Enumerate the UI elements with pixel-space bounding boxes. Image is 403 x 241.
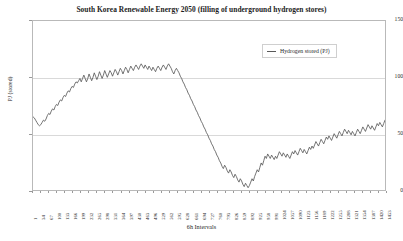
x-tick-mark-991	[273, 191, 274, 193]
x-tick-label-199: 199	[82, 213, 87, 220]
x-tick-mark-892	[249, 191, 250, 193]
x-tick-mark-1123	[306, 191, 307, 193]
x-tick-mark-430	[137, 191, 138, 193]
x-tick-label-34: 34	[42, 215, 47, 220]
x-tick-mark-496	[153, 191, 154, 193]
x-tick-mark-1	[32, 191, 33, 193]
x-tick-mark-727	[209, 191, 210, 193]
x-tick-label-463: 463	[146, 213, 151, 220]
x-tick-label-1024: 1024	[283, 210, 288, 220]
x-tick-mark-1222	[330, 191, 331, 193]
x-tick-mark-199	[80, 191, 81, 193]
x-tick-label-1354: 1354	[363, 210, 368, 220]
x-tick-mark-661	[193, 191, 194, 193]
x-tick-mark-1288	[346, 191, 347, 193]
x-tick-label-1189: 1189	[323, 211, 328, 220]
x-tick-label-67: 67	[50, 215, 55, 220]
x-tick-label-859: 859	[243, 213, 248, 220]
x-tick-label-826: 826	[235, 213, 240, 220]
legend-swatch-hydrogen-stored	[267, 51, 276, 52]
legend: Hydrogen stored (PJ)	[262, 44, 337, 58]
x-tick-label-892: 892	[251, 213, 256, 220]
x-tick-label-727: 727	[211, 213, 216, 220]
x-tick-mark-34	[40, 191, 41, 193]
x-tick-label-661: 661	[195, 213, 200, 220]
x-tick-mark-694	[201, 191, 202, 193]
x-tick-label-793: 793	[227, 213, 232, 220]
x-tick-mark-1057	[289, 191, 290, 193]
x-tick-mark-1024	[281, 191, 282, 193]
x-tick-mark-364	[121, 191, 122, 193]
chart-root: South Korea Renewable Energy 2050 (filli…	[0, 0, 403, 241]
x-tick-label-1090: 1090	[299, 210, 304, 220]
x-tick-mark-1321	[354, 191, 355, 193]
x-tick-label-100: 100	[58, 213, 63, 220]
x-tick-mark-595	[177, 191, 178, 193]
x-tick-mark-628	[185, 191, 186, 193]
x-axis-label: 6h Intervals	[0, 223, 403, 230]
x-tick-label-1387: 1387	[372, 210, 377, 220]
x-tick-label-430: 430	[138, 213, 143, 220]
x-tick-label-1420: 1420	[380, 210, 385, 220]
x-tick-mark-1453	[386, 191, 387, 193]
x-tick-mark-100	[56, 191, 57, 193]
x-tick-label-760: 760	[219, 213, 224, 220]
x-tick-mark-397	[129, 191, 130, 193]
x-tick-label-1123: 1123	[307, 211, 312, 220]
x-tick-label-1288: 1288	[347, 210, 352, 220]
x-tick-label-331: 331	[114, 213, 119, 220]
x-tick-mark-562	[169, 191, 170, 193]
x-tick-mark-463	[145, 191, 146, 193]
x-tick-mark-1420	[378, 191, 379, 193]
y-axis-label: PJ (stored)	[7, 59, 13, 119]
x-tick-mark-826	[233, 191, 234, 193]
x-tick-label-265: 265	[98, 213, 103, 220]
x-tick-label-133: 133	[66, 213, 71, 220]
x-tick-label-1321: 1321	[355, 210, 360, 220]
x-tick-mark-859	[241, 191, 242, 193]
x-tick-label-397: 397	[130, 213, 135, 220]
x-tick-label-991: 991	[275, 213, 280, 220]
x-tick-label-529: 529	[162, 213, 167, 220]
x-tick-label-1453: 1453	[388, 210, 393, 220]
x-tick-mark-166	[72, 191, 73, 193]
x-tick-mark-133	[64, 191, 65, 193]
x-tick-mark-760	[217, 191, 218, 193]
x-tick-label-1: 1	[34, 218, 39, 220]
x-tick-label-166: 166	[74, 213, 79, 220]
x-tick-label-364: 364	[122, 213, 127, 220]
x-tick-label-628: 628	[186, 213, 191, 220]
x-tick-label-1222: 1222	[331, 210, 336, 220]
x-tick-label-1255: 1255	[339, 210, 344, 220]
x-tick-mark-265	[96, 191, 97, 193]
x-tick-label-232: 232	[90, 213, 95, 220]
x-tick-label-694: 694	[203, 213, 208, 220]
x-tick-mark-1354	[362, 191, 363, 193]
x-tick-mark-331	[112, 191, 113, 193]
x-tick-label-1057: 1057	[291, 210, 296, 220]
x-tick-mark-1387	[370, 191, 371, 193]
x-tick-label-1156: 1156	[315, 211, 320, 220]
series-line-hydrogen-stored	[33, 64, 385, 188]
x-tick-mark-67	[48, 191, 49, 193]
x-tick-mark-958	[265, 191, 266, 193]
x-tick-mark-529	[161, 191, 162, 193]
x-tick-label-595: 595	[178, 213, 183, 220]
legend-label-hydrogen-stored: Hydrogen stored (PJ)	[280, 48, 330, 54]
x-tick-mark-925	[257, 191, 258, 193]
x-tick-label-562: 562	[170, 213, 175, 220]
x-tick-label-496: 496	[154, 213, 159, 220]
x-tick-label-298: 298	[106, 213, 111, 220]
x-tick-mark-1189	[322, 191, 323, 193]
x-tick-label-925: 925	[259, 213, 264, 220]
x-axis-ticks: 1346710013316619923226529833136439743046…	[32, 193, 386, 221]
x-tick-mark-793	[225, 191, 226, 193]
x-tick-label-958: 958	[267, 213, 272, 220]
x-tick-mark-1255	[338, 191, 339, 193]
chart-title: South Korea Renewable Energy 2050 (filli…	[0, 5, 403, 14]
x-tick-mark-1090	[298, 191, 299, 193]
x-tick-mark-232	[88, 191, 89, 193]
x-tick-mark-1156	[314, 191, 315, 193]
x-tick-mark-298	[104, 191, 105, 193]
